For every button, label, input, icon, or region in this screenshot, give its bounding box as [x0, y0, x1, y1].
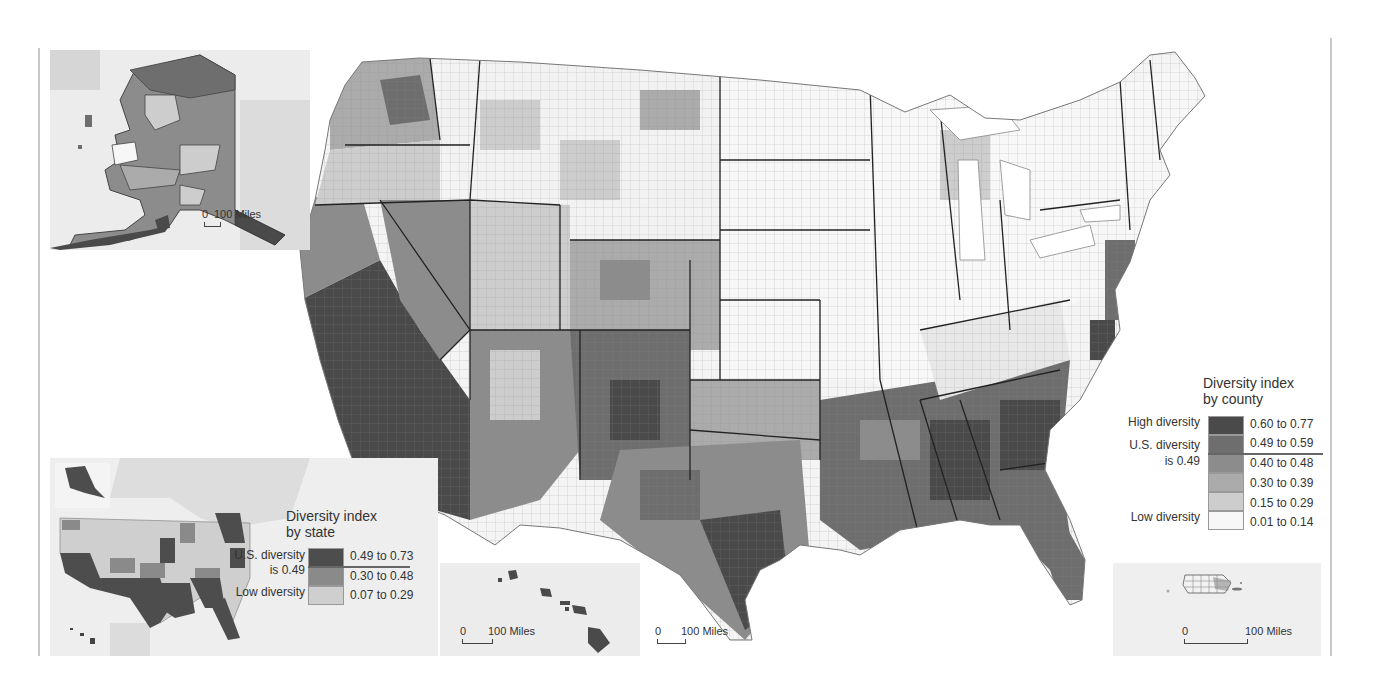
scale-distance-label: 100 Miles	[214, 208, 261, 220]
scale-zero-label: 0	[460, 625, 466, 637]
county-swatch-3	[1208, 454, 1244, 473]
county-legend-title: Diversity index by county	[1203, 375, 1294, 407]
county-range-6: 0.01 to 0.14	[1250, 515, 1313, 529]
state-swatch-mid	[308, 567, 344, 586]
county-range-3: 0.40 to 0.48	[1250, 456, 1313, 470]
state-legend-us-label: U.S. diversity is 0.49	[234, 548, 305, 578]
county-swatch-5	[1208, 492, 1244, 511]
scale-distance-label: 100 Miles	[488, 625, 535, 637]
puerto-rico-inset: 0 100 Miles	[1113, 563, 1321, 656]
county-range-2: 0.49 to 0.59	[1250, 436, 1313, 450]
state-legend: Diversity index by state U.S. diversity …	[230, 458, 438, 656]
state-legend-title: Diversity index by state	[286, 508, 377, 540]
scale-zero-label: 0	[1182, 625, 1188, 637]
state-us-reference-line	[308, 566, 410, 568]
state-range-low: 0.07 to 0.29	[350, 588, 413, 602]
county-swatch-1	[1208, 416, 1244, 435]
county-swatch-6	[1208, 511, 1244, 530]
county-legend-high-label: High diversity	[1128, 415, 1200, 429]
hawaii-inset: 0 100 Miles	[440, 563, 640, 656]
alaska-inset: 0 100 Miles	[50, 50, 310, 250]
scale-zero-label: 0	[202, 208, 208, 220]
scale-distance-label: 100 Miles	[681, 625, 728, 637]
state-range-mid: 0.30 to 0.48	[350, 569, 413, 583]
county-legend: Diversity index by county High diversity…	[1130, 360, 1330, 540]
scale-zero-label: 0	[655, 625, 661, 637]
alaska-map	[50, 50, 310, 250]
county-swatch-4	[1208, 473, 1244, 492]
state-range-high: 0.49 to 0.73	[350, 549, 413, 563]
county-range-5: 0.15 to 0.29	[1250, 496, 1313, 510]
county-swatch-2	[1208, 435, 1244, 454]
county-legend-low-label: Low diversity	[1131, 510, 1200, 524]
scale-distance-label: 100 Miles	[1245, 625, 1292, 637]
state-level-inset: Diversity index by state U.S. diversity …	[50, 458, 438, 656]
state-swatch-high	[308, 548, 344, 567]
county-range-4: 0.30 to 0.39	[1250, 476, 1313, 490]
state-swatch-low	[308, 586, 344, 605]
county-range-1: 0.60 to 0.77	[1250, 417, 1313, 431]
county-us-reference-line	[1208, 453, 1323, 455]
state-legend-low-label: Low diversity	[236, 585, 305, 599]
county-legend-us-label: U.S. diversity is 0.49	[1129, 437, 1200, 469]
